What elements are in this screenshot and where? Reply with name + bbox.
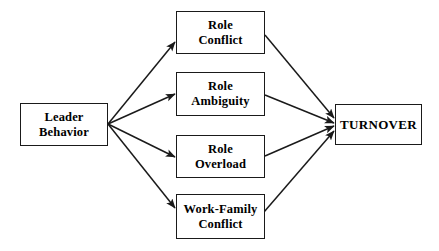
edge-work-family-conflict-to-turnover xyxy=(264,131,334,212)
edge-group xyxy=(108,35,334,212)
diagram-canvas: Leader Behavior Role Conflict Role Ambig… xyxy=(0,0,439,251)
node-label-turnover: TURNOVER xyxy=(338,117,419,132)
node-turnover[interactable]: TURNOVER xyxy=(335,104,422,145)
edge-role-ambiguity-to-turnover xyxy=(265,95,334,123)
edge-leader-to-work-family-conflict xyxy=(108,124,175,208)
edge-leader-to-role-ambiguity xyxy=(108,94,175,124)
edge-leader-to-role-overload xyxy=(108,124,175,157)
node-label-role-ambiguity: Role Ambiguity xyxy=(189,79,251,109)
node-label-role-conflict: Role Conflict xyxy=(196,18,244,48)
edge-role-overload-to-turnover xyxy=(265,126,334,156)
edge-role-conflict-to-turnover xyxy=(265,35,334,118)
node-role-overload[interactable]: Role Overload xyxy=(176,135,265,178)
node-label-role-overload: Role Overload xyxy=(193,142,248,172)
node-role-ambiguity[interactable]: Role Ambiguity xyxy=(176,72,265,116)
node-role-conflict[interactable]: Role Conflict xyxy=(176,11,265,54)
node-leader-behavior[interactable]: Leader Behavior xyxy=(20,103,108,146)
node-work-family-conflict[interactable]: Work-Family Conflict xyxy=(176,194,265,239)
node-label-work-family-conflict: Work-Family Conflict xyxy=(182,202,260,232)
edge-leader-to-role-conflict xyxy=(108,42,175,124)
node-label-leader-behavior: Leader Behavior xyxy=(37,110,91,140)
